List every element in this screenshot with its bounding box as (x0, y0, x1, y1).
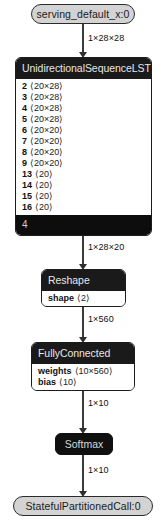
edge-label-fullyconnected-to-softmax: 1×10 (88, 399, 109, 408)
attribute-key: 5 (22, 114, 27, 124)
attribute-key: 2 (22, 81, 27, 91)
attribute-value: ⟨20×20⟩ (30, 158, 63, 168)
graph-node-reshape[interactable]: Reshape shape⟨2⟩ (41, 269, 126, 307)
attribute-row: 7⟨20×20⟩ (16, 136, 151, 147)
attribute-value: ⟨20×20⟩ (30, 147, 63, 157)
edge-line (82, 455, 84, 493)
edge-label-reshape-to-fullyconnected: 1×560 (88, 315, 114, 324)
attribute-key: shape (48, 293, 74, 303)
attribute-key: 15 (22, 191, 32, 201)
graph-node-reshape-header: Reshape (42, 270, 125, 291)
attribute-key: 3 (22, 92, 27, 102)
model-graph-canvas: serving_default_x:0 1×28×28 Unidirection… (0, 0, 166, 526)
attribute-row: 14⟨20⟩ (16, 180, 151, 191)
edge-line (82, 232, 84, 266)
graph-node-softmax-label: Softmax (65, 439, 104, 450)
graph-node-lstm[interactable]: UnidirectionalSequenceLSTM 2⟨20×28⟩ 3⟨20… (15, 57, 152, 236)
graph-node-output-label: StatefulPartitionedCall:0 (25, 501, 140, 512)
attribute-row: 4⟨20×28⟩ (16, 103, 151, 114)
graph-node-input-label: serving_default_x:0 (37, 9, 130, 20)
attribute-value: ⟨20⟩ (35, 169, 53, 179)
attribute-key: 14 (22, 180, 32, 190)
graph-node-softmax[interactable]: Softmax (55, 433, 113, 455)
attribute-key: 7 (22, 136, 27, 146)
edge-line (82, 305, 84, 339)
attribute-key: bias (38, 377, 56, 387)
attribute-value: ⟨20×28⟩ (30, 103, 63, 113)
attribute-key: 16 (22, 202, 32, 212)
attribute-value: ⟨20×28⟩ (30, 92, 63, 102)
edge-label-lstm-to-reshape: 1×28×20 (88, 243, 124, 252)
attribute-key: 13 (22, 169, 32, 179)
attribute-value: ⟨20⟩ (35, 202, 53, 212)
attribute-value: ⟨20×20⟩ (30, 136, 63, 146)
attribute-row: 6⟨20×20⟩ (16, 125, 151, 136)
attribute-row: 5⟨20×28⟩ (16, 114, 151, 125)
attribute-value: ⟨20×28⟩ (30, 114, 63, 124)
graph-node-lstm-header: UnidirectionalSequenceLSTM (16, 58, 151, 79)
attribute-key: weights (38, 366, 72, 376)
attribute-key: 4 (22, 103, 27, 113)
attribute-row: 2⟨20×28⟩ (16, 81, 151, 92)
attribute-row: 15⟨20⟩ (16, 191, 151, 202)
attribute-value: ⟨20×20⟩ (30, 125, 63, 135)
edge-label-softmax-to-output: 1×10 (88, 466, 109, 475)
graph-node-input[interactable]: serving_default_x:0 (31, 4, 135, 24)
attribute-value: ⟨20×28⟩ (30, 81, 63, 91)
edge-line (82, 24, 84, 54)
graph-node-lstm-footer: 4 (16, 215, 151, 235)
attribute-value: ⟨10⟩ (59, 377, 77, 387)
attribute-key: 6 (22, 125, 27, 135)
attribute-value: ⟨2⟩ (77, 293, 90, 303)
attribute-row: 9⟨20×20⟩ (16, 158, 151, 169)
graph-node-fullyconnected-header: FullyConnected (32, 343, 134, 364)
attribute-value: ⟨20⟩ (35, 180, 53, 190)
attribute-row: weights⟨10×560⟩ (32, 366, 134, 377)
attribute-row: bias⟨10⟩ (32, 377, 134, 388)
attribute-row: shape⟨2⟩ (42, 293, 125, 304)
attribute-value: ⟨10×560⟩ (75, 366, 113, 376)
attribute-key: 8 (22, 147, 27, 157)
graph-node-output[interactable]: StatefulPartitionedCall:0 (13, 496, 153, 516)
attribute-value: ⟨20⟩ (35, 191, 53, 201)
graph-node-fullyconnected[interactable]: FullyConnected weights⟨10×560⟩ bias⟨10⟩ (31, 342, 135, 391)
graph-node-reshape-attributes: shape⟨2⟩ (42, 291, 125, 306)
attribute-key: 9 (22, 158, 27, 168)
attribute-row: 13⟨20⟩ (16, 169, 151, 180)
graph-node-fullyconnected-attributes: weights⟨10×560⟩ bias⟨10⟩ (32, 364, 134, 390)
graph-node-lstm-attributes: 2⟨20×28⟩ 3⟨20×28⟩ 4⟨20×28⟩ 5⟨20×28⟩ 6⟨20… (16, 79, 151, 215)
attribute-row: 3⟨20×28⟩ (16, 92, 151, 103)
attribute-row: 8⟨20×20⟩ (16, 147, 151, 158)
attribute-row: 16⟨20⟩ (16, 202, 151, 213)
edge-label-input-to-lstm: 1×28×28 (88, 34, 124, 43)
edge-line (82, 389, 84, 430)
